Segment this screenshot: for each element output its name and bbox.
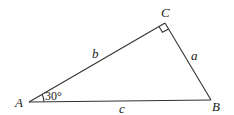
vertex-label-c: C xyxy=(161,5,170,20)
angle-arc-a xyxy=(42,95,44,102)
vertex-label-a: A xyxy=(14,95,23,110)
side-a xyxy=(165,23,211,100)
side-label-a: a xyxy=(191,48,198,63)
angle-label-a: 30° xyxy=(45,89,62,103)
side-label-c: c xyxy=(119,101,125,115)
side-label-b: b xyxy=(92,46,99,61)
vertex-label-b: B xyxy=(212,99,220,114)
triangle-diagram: A B C b a c 30° xyxy=(0,0,234,115)
